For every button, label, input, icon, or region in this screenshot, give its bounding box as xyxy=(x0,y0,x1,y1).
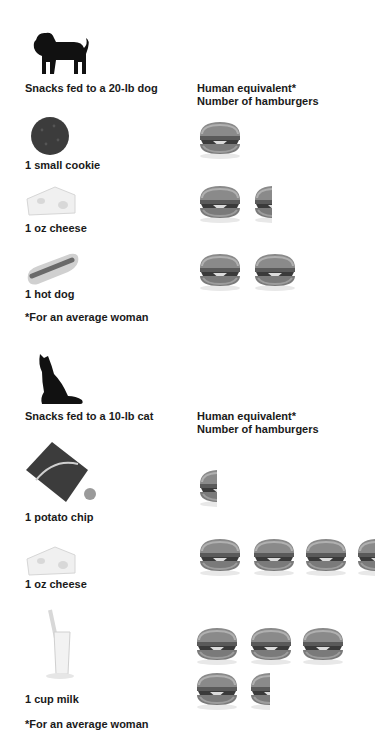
hamburger-icon xyxy=(194,626,240,666)
cat-header-line2: Number of hamburgers xyxy=(197,423,319,436)
cat-section-title: Snacks fed to a 10-lb cat xyxy=(25,410,153,423)
dog-item-label: 1 hot dog xyxy=(25,288,75,301)
chip-icon xyxy=(24,440,100,502)
hamburger-icon xyxy=(197,537,243,577)
dog-item-label: 1 oz cheese xyxy=(25,222,87,235)
cat-item-label: 1 cup milk xyxy=(25,693,79,706)
hamburger-icon xyxy=(303,537,349,577)
hamburger-partial-icon xyxy=(355,537,375,577)
hamburger-icon xyxy=(197,252,243,292)
hamburger-icon xyxy=(197,184,243,224)
milk-icon xyxy=(40,608,76,680)
hamburger-partial-icon xyxy=(248,671,270,711)
cat-footnote: *For an average woman xyxy=(25,718,149,731)
dog-header-line1: Human equivalent* xyxy=(197,82,296,95)
cat-item-label: 1 oz cheese xyxy=(25,578,87,591)
cat-item-label: 1 potato chip xyxy=(25,511,93,524)
hamburger-icon xyxy=(300,626,346,666)
cookie-icon xyxy=(30,116,70,156)
dog-header-line2: Number of hamburgers xyxy=(197,95,319,108)
dog-section-title: Snacks fed to a 20-lb dog xyxy=(25,82,158,95)
dog-item-label: 1 small cookie xyxy=(25,159,100,172)
hamburger-icon xyxy=(248,626,294,666)
hamburger-icon xyxy=(252,252,298,292)
hamburger-partial-icon xyxy=(197,468,217,508)
hotdog-icon xyxy=(24,250,80,288)
dog-footnote: *For an average woman xyxy=(25,311,149,324)
hamburger-icon xyxy=(194,671,240,711)
dog-silhouette-icon xyxy=(30,30,90,78)
hamburger-partial-icon xyxy=(252,184,272,224)
cheese-icon xyxy=(25,545,77,579)
cheese-icon xyxy=(25,185,77,219)
cat-header-line1: Human equivalent* xyxy=(197,410,296,423)
hamburger-icon xyxy=(197,120,243,160)
cat-silhouette-icon xyxy=(36,352,90,407)
hamburger-icon xyxy=(251,537,297,577)
